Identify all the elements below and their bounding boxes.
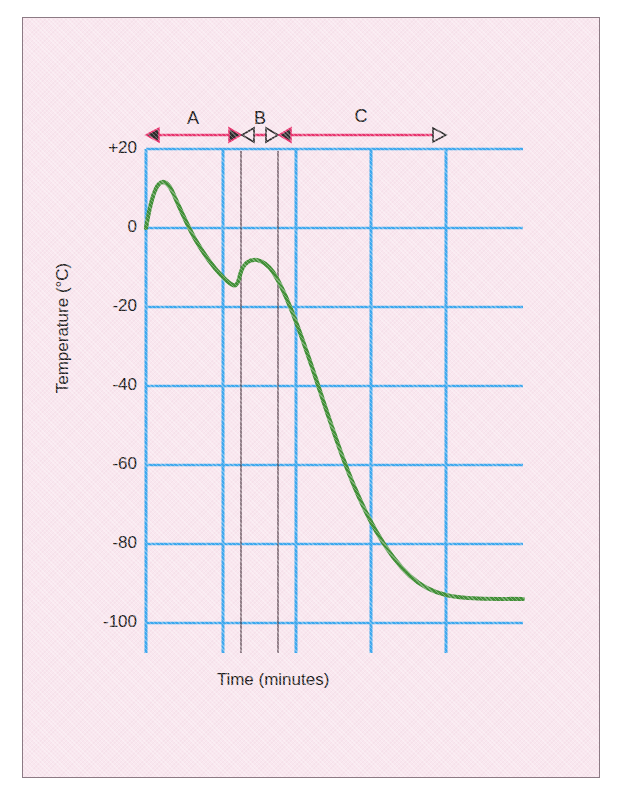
segment-label-a: A: [173, 108, 213, 129]
arrowhead-c-right: [433, 128, 446, 142]
segment-annotations: [23, 18, 601, 779]
y-axis-title: Temperature (°C): [53, 228, 73, 428]
ytick-label-0: 0: [81, 217, 137, 237]
arrowhead-c-left: [279, 128, 291, 142]
arrowhead-a-right: [229, 128, 241, 142]
ytick-label--20: -20: [81, 296, 137, 316]
ytick-label-20: +20: [81, 138, 137, 158]
ytick-label--80: -80: [81, 533, 137, 553]
arrowhead-b-left: [242, 128, 254, 142]
figure-frame: A B C +20 0 -20 -40 -60 -80 -100 Tempera…: [22, 17, 600, 778]
segment-label-c: C: [341, 106, 381, 127]
ytick-label--40: -40: [81, 375, 137, 395]
arrowhead-a-left: [146, 128, 159, 142]
ytick-label--60: -60: [81, 454, 137, 474]
segment-label-b: B: [240, 108, 280, 129]
x-axis-title: Time (minutes): [23, 670, 523, 690]
arrowhead-b-right: [266, 128, 278, 142]
ytick-label--100: -100: [81, 612, 137, 632]
